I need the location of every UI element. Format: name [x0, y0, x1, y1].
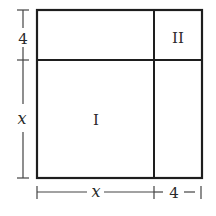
region-label-II: II	[172, 29, 184, 47]
region-label-I: I	[93, 111, 99, 129]
square-diagram: II I 4 x x 4	[0, 0, 216, 216]
left-bottom-dimension-label: x	[17, 109, 26, 128]
bottom-left-dimension-label: x	[91, 182, 100, 201]
left-top-dimension-label: 4	[18, 30, 28, 48]
bottom-right-dimension-label: 4	[169, 184, 179, 202]
